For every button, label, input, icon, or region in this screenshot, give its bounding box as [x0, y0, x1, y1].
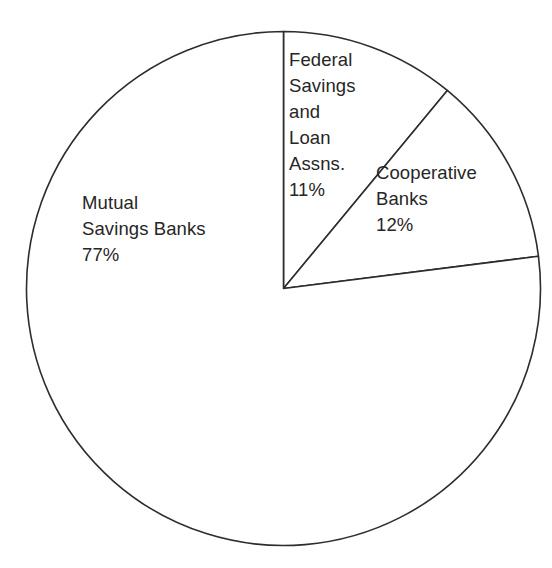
slice-label-line: Mutual [82, 190, 206, 216]
slice-label-percent: 11% [289, 177, 356, 203]
slice-label-cooperative-banks: Cooperative Banks 12% [376, 160, 477, 238]
slice-label-line: Savings [289, 73, 356, 99]
slice-label-line: and [289, 99, 356, 125]
pie-chart-graphic [0, 0, 552, 568]
slice-label-line: Cooperative [376, 160, 477, 186]
slice-label-federal-savings-and-loan-assns: Federal Savings and Loan Assns. 11% [289, 47, 356, 203]
slice-label-line: Loan [289, 125, 356, 151]
slice-label-percent: 12% [376, 212, 477, 238]
pie-slices [26, 32, 540, 546]
slice-label-percent: 77% [82, 242, 206, 268]
slice-label-line: Savings Banks [82, 216, 206, 242]
slice-label-line: Federal [289, 47, 356, 73]
pie-chart: Federal Savings and Loan Assns. 11% Coop… [0, 0, 552, 568]
slice-label-line: Assns. [289, 151, 356, 177]
slice-label-line: Banks [376, 186, 477, 212]
slice-label-mutual-savings-banks: Mutual Savings Banks 77% [82, 190, 206, 268]
